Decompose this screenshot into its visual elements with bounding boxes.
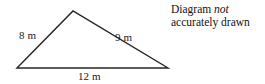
side-label-left: 8 m: [19, 29, 36, 41]
note-line-1-prefix: Diagram: [171, 3, 214, 15]
note-line-2: accurately drawn: [171, 16, 265, 29]
note-line-1: Diagram not: [171, 3, 265, 16]
note-emphasis-not: not: [214, 3, 229, 15]
side-label-right: 9 m: [115, 31, 132, 43]
diagram-note: Diagram not accurately drawn: [171, 3, 265, 29]
side-label-base: 12 m: [78, 70, 101, 82]
diagram-page: 8 m 9 m 12 m Diagram not accurately draw…: [0, 0, 265, 84]
triangle-figure: 8 m 9 m 12 m: [0, 0, 180, 84]
triangle-outline: [17, 11, 168, 68]
